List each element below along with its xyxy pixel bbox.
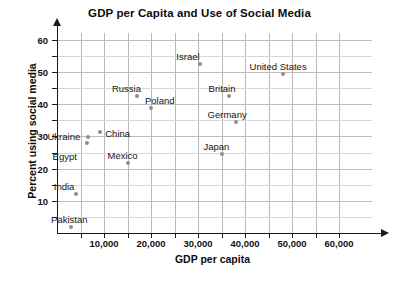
data-point-label: Israel	[176, 51, 199, 62]
data-point-label: China	[105, 128, 130, 139]
data-point-label: India	[54, 181, 75, 192]
y-axis-tick	[52, 88, 57, 89]
data-point-label: Britain	[209, 83, 236, 94]
y-axis-line	[57, 25, 58, 233]
x-axis-tick	[81, 233, 82, 238]
gridline-horizontal	[57, 153, 372, 154]
data-point-label: Russia	[112, 83, 141, 94]
x-axis-arrow-icon	[381, 229, 389, 237]
data-point	[281, 72, 285, 76]
gridline-horizontal	[57, 217, 372, 218]
y-axis-tick	[52, 72, 57, 73]
y-axis-tick	[52, 201, 57, 202]
data-point-label: Poland	[145, 95, 175, 106]
y-axis-tick	[52, 104, 57, 105]
y-axis-arrow-icon	[53, 18, 61, 26]
gridline-vertical	[316, 33, 317, 233]
data-point	[234, 120, 238, 124]
scatter-chart: GDP per Capita and Use of Social Media G…	[0, 0, 399, 281]
x-axis-tick	[316, 233, 317, 238]
gridline-horizontal	[57, 201, 372, 202]
gridline-horizontal	[57, 169, 372, 170]
plot-area	[57, 33, 368, 233]
x-axis-tick-label: 40,000	[230, 238, 259, 249]
data-point	[135, 94, 139, 98]
x-axis-tick	[269, 233, 270, 238]
y-axis-tick	[52, 169, 57, 170]
x-axis-tick-label: 20,000	[136, 238, 165, 249]
y-axis-tick-label: 20	[22, 163, 48, 174]
x-axis-tick	[222, 233, 223, 238]
data-point	[98, 130, 102, 134]
gridline-horizontal	[57, 185, 372, 186]
y-axis-tick	[52, 56, 57, 57]
y-axis-tick-label: 30	[22, 131, 48, 142]
gridline-vertical	[151, 33, 152, 233]
data-point-label: Ukraine	[47, 131, 80, 142]
gridline-horizontal	[57, 40, 372, 41]
y-axis-tick-label: 40	[22, 99, 48, 110]
x-axis-tick	[175, 233, 176, 238]
x-axis-tick-label: 10,000	[89, 238, 118, 249]
y-axis-tick	[52, 120, 57, 121]
data-point-label: Japan	[204, 141, 230, 152]
x-axis-tick-label: 30,000	[183, 238, 212, 249]
gridline-vertical	[245, 33, 246, 233]
data-point	[220, 152, 224, 156]
y-axis-tick-label: 10	[22, 195, 48, 206]
x-axis-tick	[128, 233, 129, 238]
data-point-label: Pakistan	[51, 214, 87, 225]
x-axis-title: GDP per capita	[57, 253, 368, 265]
x-axis-line	[57, 233, 382, 234]
gridline-vertical	[81, 33, 82, 233]
data-point-label: Germany	[208, 109, 247, 120]
data-point-label: Egypt	[53, 151, 77, 162]
data-point	[126, 161, 130, 165]
gridline-horizontal	[57, 120, 372, 121]
gridline-horizontal	[57, 72, 372, 73]
data-point	[227, 94, 231, 98]
gridline-vertical	[339, 33, 340, 233]
y-axis-tick	[52, 40, 57, 41]
data-point	[69, 225, 73, 229]
gridline-horizontal	[57, 104, 372, 105]
y-axis-tick-label: 60	[22, 34, 48, 45]
x-axis-tick-label: 50,000	[277, 238, 306, 249]
data-point-label: United States	[250, 61, 307, 72]
gridline-horizontal	[57, 56, 372, 57]
data-point	[85, 141, 89, 145]
y-axis-tick-label: 50	[22, 67, 48, 78]
gridline-vertical	[175, 33, 176, 233]
gridline-vertical	[222, 33, 223, 233]
data-point-label: Mexico	[108, 150, 138, 161]
x-axis-tick-label: 60,000	[324, 238, 353, 249]
